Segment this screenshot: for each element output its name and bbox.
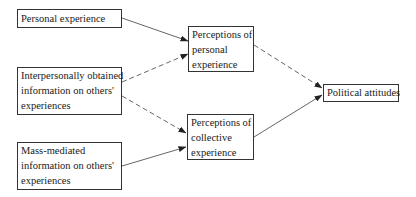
node-label: experiences — [21, 98, 118, 113]
node-perceptions-collective: Perceptions of collective experience — [187, 114, 254, 160]
node-mass-mediated-info: Mass-mediated information on others' exp… — [17, 142, 122, 190]
node-label: Political attitudes — [327, 85, 395, 101]
node-label: experience — [192, 57, 250, 72]
node-label: information on others' — [21, 158, 118, 173]
node-label: information on others' — [21, 83, 118, 98]
node-label: personal — [192, 42, 250, 57]
node-perceptions-personal: Perceptions of personal experience — [188, 26, 254, 72]
edge-perc-personal-to-political — [254, 45, 322, 88]
edge-interpersonal-to-perc-personal — [122, 54, 188, 82]
node-label: Mass-mediated — [21, 143, 118, 158]
node-label: Perceptions of — [191, 115, 250, 130]
node-political-attitudes: Political attitudes — [323, 84, 399, 102]
node-label: Personal experience — [21, 10, 118, 27]
edge-perc-collective-to-political — [254, 95, 322, 137]
edge-personal-to-perc-personal — [122, 18, 188, 41]
node-interpersonal-info: Interpersonally obtained information on … — [17, 67, 122, 115]
edge-mass-to-perc-collective — [122, 147, 186, 166]
node-label: experience — [191, 145, 250, 160]
node-label: Interpersonally obtained — [21, 68, 118, 83]
node-label: Perceptions of — [192, 27, 250, 42]
node-label: experiences — [21, 173, 118, 188]
node-label: collective — [191, 130, 250, 145]
node-personal-experience: Personal experience — [17, 9, 122, 28]
edge-interpersonal-to-perc-collective — [122, 96, 186, 133]
